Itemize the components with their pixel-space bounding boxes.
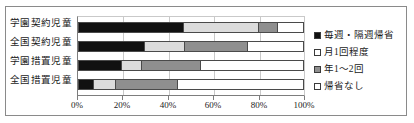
bar-segment: [121, 60, 141, 71]
legend-item-label: 帰省なし: [324, 81, 364, 92]
bar-segment: [141, 60, 200, 71]
bar-segment: [93, 79, 116, 90]
legend-item-3: 帰省なし: [314, 78, 406, 95]
bar-segment: [277, 22, 304, 33]
bar-segment: [78, 60, 121, 71]
table-row: [78, 22, 304, 33]
category-label-3: 全国措置児童: [2, 75, 72, 86]
legend-item-0: 毎週・隔週帰省: [314, 27, 406, 44]
xtick-label-20: 20%: [114, 100, 131, 111]
xtick-label-60: 60%: [205, 100, 222, 111]
bar-segment: [183, 22, 258, 33]
category-label-1: 全国契約児童: [2, 37, 72, 48]
legend-swatch-icon: [314, 83, 321, 90]
legend-swatch-icon: [314, 66, 321, 73]
bars-layer: [78, 17, 304, 95]
xtick-label-80: 80%: [251, 100, 268, 111]
table-row: [78, 41, 304, 52]
legend-swatch-icon: [314, 49, 321, 56]
legend-item-1: 月1回程度: [314, 44, 406, 61]
category-label-0: 学園契約児童: [2, 18, 72, 29]
category-label-2: 学園措置児童: [2, 56, 72, 67]
table-row: [78, 60, 304, 71]
bar-segment: [78, 22, 183, 33]
legend-item-2: 年1～2回: [314, 61, 406, 78]
bar-segment: [78, 41, 144, 52]
legend-swatch-icon: [314, 32, 321, 39]
xtick-label-40: 40%: [160, 100, 177, 111]
bar-segment: [115, 79, 177, 90]
bar-segment: [177, 79, 304, 90]
bar-segment: [184, 41, 247, 52]
plot-area: [77, 16, 305, 96]
legend-item-label: 年1～2回: [324, 64, 364, 75]
chart-figure-frame: 学園契約児童 全国契約児童 学園措置児童 全国措置児童 0% 20% 40% 6…: [5, 6, 407, 116]
bar-segment: [247, 41, 304, 52]
bar-segment: [200, 60, 304, 71]
bar-segment: [258, 22, 277, 33]
bar-segment: [78, 79, 93, 90]
chart-legend: 毎週・隔週帰省 月1回程度 年1～2回 帰省なし: [314, 27, 406, 95]
xtick-label-100: 100%: [294, 100, 315, 111]
xtick-label-0: 0%: [71, 100, 83, 111]
legend-item-label: 毎週・隔週帰省: [324, 30, 394, 41]
legend-item-label: 月1回程度: [324, 47, 369, 58]
bar-segment: [144, 41, 185, 52]
table-row: [78, 79, 304, 90]
